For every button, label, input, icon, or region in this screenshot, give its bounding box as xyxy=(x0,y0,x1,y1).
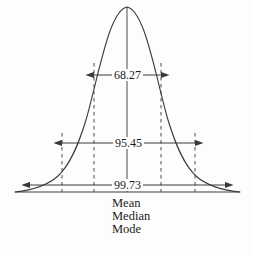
mode-label: Mode xyxy=(112,223,150,236)
three-sigma-value-label: 99.73 xyxy=(112,179,143,191)
bell-curve-figure: 68.27 95.45 99.73 Mean Median Mode xyxy=(0,0,253,255)
two-sigma-value-label: 95.45 xyxy=(113,137,144,149)
one-sigma-value-label: 68.27 xyxy=(112,69,143,81)
central-tendency-labels: Mean Median Mode xyxy=(112,197,150,237)
